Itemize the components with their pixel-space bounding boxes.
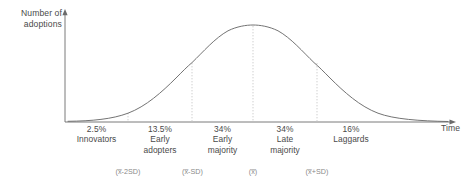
adopter-segment-labels: 2.5% Innovators 13.5% Early adopters 34%… xyxy=(65,124,385,164)
sd-annotation-x-minus-2sd: (x̅-2SD) xyxy=(98,167,158,177)
standard-deviation-annotations: (x̅-2SD) (x̅-SD) (x̅) (x̅+SD) xyxy=(0,167,472,181)
segment-laggards-name: Laggards xyxy=(317,134,385,144)
segment-innovators-percent: 2.5% xyxy=(65,124,128,134)
segment-innovators-name: Innovators xyxy=(65,134,128,144)
sd-annotation-x-minus-sd: (x̅-SD) xyxy=(165,167,220,177)
sd-annotation-x-mean: (x̅) xyxy=(229,167,277,177)
segment-early-majority-name-2: majority xyxy=(192,145,253,155)
diffusion-of-innovation-chart: Number of adoptions Time 2.5% Innovators… xyxy=(0,0,472,190)
segment-early-adopters-name-2: adopters xyxy=(128,145,192,155)
segment-early-majority-percent: 34% xyxy=(192,124,253,134)
segment-late-majority: 34% Late majority xyxy=(253,124,317,155)
segment-early-adopters: 13.5% Early adopters xyxy=(128,124,192,155)
segment-late-majority-percent: 34% xyxy=(253,124,317,134)
segment-early-majority-name: Early xyxy=(192,134,253,144)
segment-late-majority-name: Late xyxy=(253,134,317,144)
segment-innovators: 2.5% Innovators xyxy=(65,124,128,145)
segment-laggards-percent: 16% xyxy=(317,124,385,134)
bell-curve-line xyxy=(68,25,448,122)
y-axis-arrow-icon xyxy=(62,9,67,15)
sd-annotation-x-plus-sd: (x̅+SD) xyxy=(288,167,346,177)
segment-late-majority-name-2: majority xyxy=(253,145,317,155)
x-axis-arrow-icon xyxy=(450,119,457,124)
segment-early-majority: 34% Early majority xyxy=(192,124,253,155)
segment-laggards: 16% Laggards xyxy=(317,124,385,145)
segment-early-adopters-percent: 13.5% xyxy=(128,124,192,134)
segment-early-adopters-name: Early xyxy=(128,134,192,144)
